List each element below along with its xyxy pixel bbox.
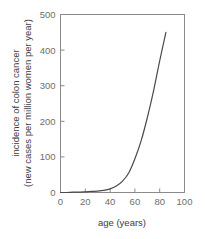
y-tick-label: 200 [40, 116, 56, 127]
y-tick-label: 0 [50, 187, 55, 198]
x-tick-label: 60 [130, 196, 141, 207]
x-tick-label: 40 [105, 196, 116, 207]
y-tick-label: 400 [40, 45, 56, 56]
x-tick-label: 20 [80, 196, 91, 207]
y-tick-label: 100 [40, 151, 56, 162]
x-tick-label: 80 [154, 196, 165, 207]
colon-cancer-incidence-chart: 0100200300400500 020406080100 age (years… [0, 0, 205, 239]
y-axis-title-line2: (new cases per million women per year) [22, 19, 33, 187]
x-axis-title: age (years) [98, 217, 146, 228]
chart-container: 0100200300400500 020406080100 age (years… [0, 0, 205, 239]
x-tick-label: 100 [177, 196, 193, 207]
y-axis-title-line1: incidence of colon cancer [10, 49, 21, 156]
x-tick-label: 0 [58, 196, 63, 207]
y-tick-label: 500 [40, 9, 56, 20]
y-tick-label: 300 [40, 80, 56, 91]
